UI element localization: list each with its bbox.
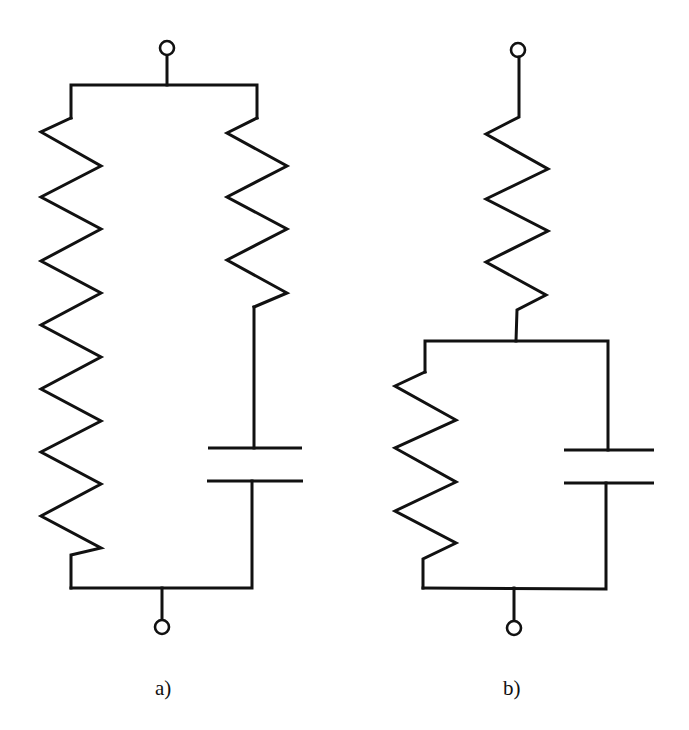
circuit-b-capacitor: [564, 450, 654, 483]
circuit-a-bottom-terminal: [155, 620, 169, 634]
circuit-a-top-terminal: [160, 41, 174, 55]
circuit-a-resistor-left: [41, 118, 101, 588]
circuit-b-top-bus: [425, 341, 608, 450]
circuit-a-capacitor: [207, 448, 303, 481]
circuit-a: [41, 41, 303, 634]
circuit-a-resistor-right: [227, 118, 287, 307]
circuit-a-bottom-bus: [71, 481, 252, 588]
circuit-b-bottom-terminal: [507, 621, 521, 635]
circuit-b-bottom-bus: [423, 483, 606, 589]
circuit-b: [395, 43, 654, 635]
circuit-b-label: b): [503, 676, 521, 700]
circuit-a-label: a): [155, 676, 171, 700]
circuit-b-top-terminal: [511, 43, 525, 57]
circuit-b-resistor-series: [486, 57, 548, 341]
circuit-diagram: a) b): [0, 0, 689, 730]
circuit-a-top-bus: [71, 85, 257, 118]
circuit-b-resistor-left: [395, 372, 456, 588]
